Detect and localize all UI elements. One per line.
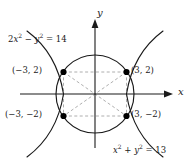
circle-eq-plus: +: [124, 145, 131, 155]
point-top-left-dot: [60, 69, 66, 75]
point-bottom-right-label: (3, −2): [131, 110, 161, 119]
point-top-right-label: (3, 2): [131, 66, 154, 75]
y-axis-label: y: [97, 8, 103, 18]
point-bottom-right-dot: [123, 113, 129, 119]
math-figure: y x 2x2 − y2 = 14 x2 + y2 = 13 (−3, 2) (…: [0, 0, 193, 165]
hyperbola-eq-equals: = 14: [46, 34, 67, 44]
point-bottom-left-dot: [60, 113, 66, 119]
circle-eq-exp2: 2: [139, 143, 143, 150]
point-top-right-dot: [123, 69, 129, 75]
hyperbola-equation: 2x2 − y2 = 14: [8, 35, 67, 44]
hyperbola-eq-exp1: 2: [18, 32, 22, 39]
hyperbola-eq-minus: −: [25, 34, 32, 44]
y-axis-arrowhead: [92, 19, 99, 28]
circle-eq-equals: = 13: [146, 145, 167, 155]
circle-equation: x2 + y2 = 13: [113, 146, 166, 155]
circle-eq-exp1: 2: [118, 143, 122, 150]
hyperbola-eq-exp2: 2: [39, 32, 43, 39]
figure-canvas: [0, 0, 193, 165]
x-axis-label: x: [178, 87, 184, 97]
point-bottom-left-label: (−3, −2): [5, 110, 42, 119]
point-top-left-label: (−3, 2): [12, 66, 42, 75]
x-axis-arrowhead: [164, 91, 173, 98]
